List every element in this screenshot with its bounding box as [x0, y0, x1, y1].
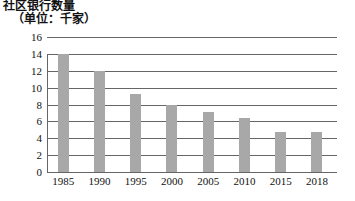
gridline — [47, 88, 337, 89]
bar — [311, 132, 322, 173]
bar — [166, 105, 177, 173]
x-tick-label: 2005 — [188, 175, 228, 187]
gridline — [47, 71, 337, 72]
bar — [203, 112, 214, 172]
y-tick-label: 16 — [2, 32, 42, 43]
gridline — [47, 105, 337, 106]
y-axis-tick-labels: 0246810121416 — [0, 0, 42, 201]
bar — [239, 118, 250, 172]
gridline — [47, 37, 337, 38]
x-tick-label: 2018 — [297, 175, 337, 187]
bar — [130, 94, 141, 172]
bar — [275, 132, 286, 173]
x-axis-tick-labels: 19851990199520002005201020152018 — [47, 175, 337, 191]
gridline — [47, 155, 337, 156]
gridline — [47, 138, 337, 139]
gridline — [47, 54, 337, 55]
y-tick-label: 2 — [2, 150, 42, 161]
gridline — [47, 172, 337, 173]
x-tick-label: 2010 — [224, 175, 264, 187]
x-tick-label: 1985 — [43, 175, 83, 187]
bar — [94, 71, 105, 172]
x-tick-label: 2015 — [261, 175, 301, 187]
y-tick-label: 10 — [2, 83, 42, 94]
plot-area — [47, 37, 337, 172]
y-tick-label: 8 — [2, 100, 42, 111]
x-tick-label: 1995 — [116, 175, 156, 187]
y-tick-label: 4 — [2, 133, 42, 144]
gridline — [47, 121, 337, 122]
x-tick-label: 2000 — [152, 175, 192, 187]
bar — [58, 54, 69, 172]
bar-chart-figure: 社区银行数量 （单位：千家） 0246810121416 19851990199… — [0, 0, 355, 201]
y-tick-label: 14 — [2, 49, 42, 60]
y-tick-label: 12 — [2, 66, 42, 77]
y-tick-label: 6 — [2, 116, 42, 127]
y-tick-label: 0 — [2, 167, 42, 178]
x-tick-label: 1990 — [79, 175, 119, 187]
